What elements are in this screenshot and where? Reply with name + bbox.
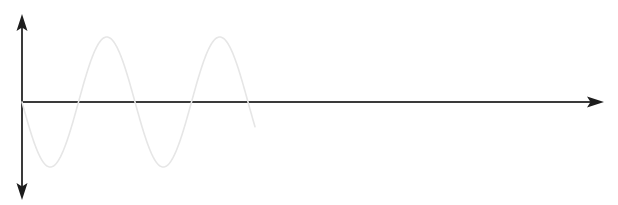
figure-canvas: [0, 0, 618, 205]
axis-diagram-svg: [0, 0, 618, 205]
